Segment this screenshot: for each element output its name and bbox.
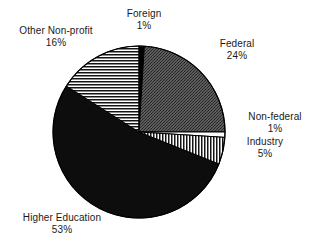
pie-label-higher-education-name: Higher Education xyxy=(6,212,118,224)
pie-label-federal-name: Federal xyxy=(199,38,275,50)
pie-chart: Foreign 1% Other Non-profit 16% Federal … xyxy=(0,0,315,249)
pie-label-foreign-value: 1% xyxy=(106,20,182,32)
pie-label-industry-value: 5% xyxy=(227,148,303,160)
pie-slices xyxy=(53,46,225,218)
pie-label-federal-value: 24% xyxy=(199,50,275,62)
pie-label-other-nonprofit-name: Other Non-profit xyxy=(1,25,111,37)
pie-label-higher-education: Higher Education 53% xyxy=(6,212,118,236)
pie-label-industry: Industry 5% xyxy=(227,136,303,160)
pie-label-other-nonprofit: Other Non-profit 16% xyxy=(1,25,111,49)
pie-label-higher-education-value: 53% xyxy=(6,224,118,236)
pie-label-foreign-name: Foreign xyxy=(106,8,182,20)
pie-label-industry-name: Industry xyxy=(227,136,303,148)
pie-label-foreign: Foreign 1% xyxy=(106,8,182,32)
pie-label-other-nonprofit-value: 16% xyxy=(1,37,111,49)
pie-label-federal: Federal 24% xyxy=(199,38,275,62)
pie-label-non-federal: Non-federal 1% xyxy=(235,111,315,135)
pie-label-non-federal-name: Non-federal xyxy=(235,111,315,123)
pie-label-non-federal-value: 1% xyxy=(235,123,315,135)
